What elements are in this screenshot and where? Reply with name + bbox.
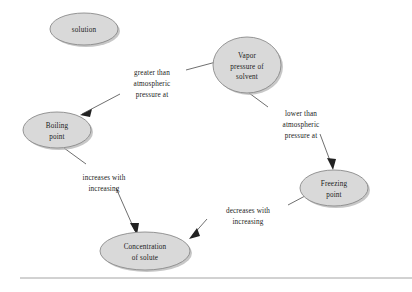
node-shape-boiling-point[interactable] (23, 112, 91, 148)
node-label-line: pressure of (230, 63, 264, 71)
arrowhead-freezing-point (327, 158, 336, 170)
node-label-line: Concentration (124, 243, 167, 251)
edge-line-vapor-to-boiling-b (82, 94, 120, 114)
node-shape-freezing-point[interactable] (300, 170, 368, 206)
arrowhead-boiling-point (80, 109, 92, 117)
edge-label-line: lower than (285, 110, 317, 118)
edge-label-boiling-to-concentration: increases with increasing (82, 174, 125, 193)
node-shape-concentration-of-solute[interactable] (100, 232, 190, 270)
node-vapor-pressure-of-solvent[interactable]: Vapor pressure of solvent (213, 37, 283, 95)
node-label-line: point (326, 191, 342, 199)
arrowhead-concentration-right (189, 228, 200, 239)
edge-label-line: increases with (82, 174, 125, 182)
edge-label-line: pressure at (136, 91, 169, 99)
node-label-line: point (49, 133, 65, 141)
node-concentration-of-solute[interactable]: Concentration of solute (100, 232, 192, 272)
edge-label-line: greater than (134, 69, 170, 77)
edge-label-vapor-to-boiling: greater than atmospheric pressure at (134, 69, 171, 99)
edge-label-freezing-to-concentration: decreases with increasing (226, 207, 270, 226)
edge-label-vapor-to-freezing: lower than atmospheric pressure at (283, 110, 320, 140)
node-label-solution: solution (72, 26, 97, 34)
node-freezing-point[interactable]: Freezing point (300, 170, 370, 208)
edge-line-vapor-to-freezing (249, 93, 268, 107)
edge-label-line: decreases with (226, 207, 270, 215)
edge-label-line: pressure at (285, 132, 318, 140)
node-label-line: Freezing (321, 180, 348, 188)
concept-map-diagram: greater than atmospheric pressure at low… (0, 0, 412, 292)
edge-line-freezing-to-concentration (288, 196, 305, 205)
node-boiling-point[interactable]: Boiling point (23, 112, 93, 150)
node-solution[interactable]: solution (50, 13, 120, 47)
edge-label-line: increasing (88, 185, 119, 193)
concept-map-canvas: greater than atmospheric pressure at low… (0, 0, 412, 292)
edge-line-vapor-to-boiling (186, 62, 216, 70)
edge-label-line: increasing (232, 218, 263, 226)
node-label-line: Boiling (46, 122, 69, 130)
node-label-line: Vapor (238, 52, 256, 60)
edge-line-boiling-to-concentration (64, 148, 86, 164)
edge-label-line: atmospheric (134, 80, 171, 88)
node-label-line: of solute (132, 254, 158, 262)
edge-label-line: atmospheric (283, 121, 320, 129)
node-label-line: solvent (236, 73, 258, 81)
